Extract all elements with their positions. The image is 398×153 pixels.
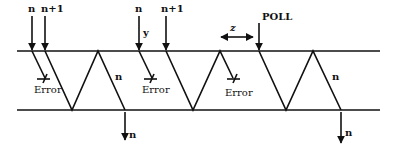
arrival-label-n1-2: n+1 bbox=[161, 3, 184, 14]
arrival-label-n-2: n bbox=[135, 3, 143, 14]
error-label-2: Error bbox=[142, 84, 170, 95]
arrival-label-n1-1: n+1 bbox=[41, 3, 64, 14]
frame-path-3 bbox=[259, 51, 341, 110]
arq-timing-diagram: n n+1 n y n+1 POLL z Error Error Error n… bbox=[0, 0, 398, 153]
interval-z-label: z bbox=[229, 22, 236, 33]
frame-path-2 bbox=[166, 51, 233, 110]
frame-label-n-1: n bbox=[115, 71, 123, 82]
error-frame-1 bbox=[32, 51, 45, 78]
output-label-n-2: n bbox=[345, 127, 353, 138]
error-label-3: Error bbox=[225, 87, 253, 98]
arrival-side-label-y: y bbox=[142, 27, 150, 38]
arrival-label-n-1: n bbox=[28, 3, 36, 14]
frame-path-1 bbox=[45, 51, 125, 110]
poll-label: POLL bbox=[262, 11, 292, 22]
error-label-1: Error bbox=[34, 84, 62, 95]
frame-label-n-2: n bbox=[332, 71, 340, 82]
error-frame-2 bbox=[139, 51, 152, 78]
output-label-n-1: n bbox=[129, 129, 137, 140]
